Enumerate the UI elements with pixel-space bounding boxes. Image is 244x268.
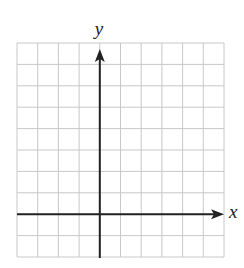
- x-axis-label: x: [229, 202, 237, 221]
- y-axis-label: y: [95, 19, 103, 38]
- grid-lines: [17, 43, 224, 257]
- coordinate-plane: [0, 0, 244, 268]
